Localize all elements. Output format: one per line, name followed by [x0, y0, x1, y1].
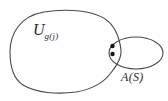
set-a-label: A(S) [121, 71, 144, 83]
element-dot-bottom [110, 52, 114, 56]
set-u-subscript: g(j) [45, 31, 59, 41]
set-u-blob-outline [10, 10, 121, 93]
set-a-ellipse-outline [109, 37, 163, 69]
set-u-symbol: U [33, 21, 45, 38]
set-diagram-svg [0, 0, 168, 101]
set-diagram: Ug(j) A(S) [0, 0, 168, 101]
element-dot-top [110, 44, 114, 48]
set-u-label: Ug(j) [33, 22, 58, 41]
